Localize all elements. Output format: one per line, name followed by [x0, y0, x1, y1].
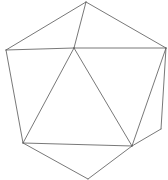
edge-C-E: [23, 48, 74, 143]
polyhedron-drawing: [0, 0, 168, 180]
edge-C-F: [74, 48, 132, 146]
edge-E-F: [23, 143, 132, 146]
diagram-canvas: [0, 0, 168, 180]
edge-A-D: [86, 2, 166, 48]
edge-B-E: [6, 50, 23, 143]
edge-F-H: [88, 146, 132, 179]
edge-D-F: [132, 48, 166, 146]
edge-B-C: [6, 48, 74, 50]
edge-E-H: [23, 143, 88, 179]
edge-G-F: [132, 129, 161, 146]
edge-A-C: [74, 2, 86, 48]
edge-A-B: [6, 2, 86, 50]
